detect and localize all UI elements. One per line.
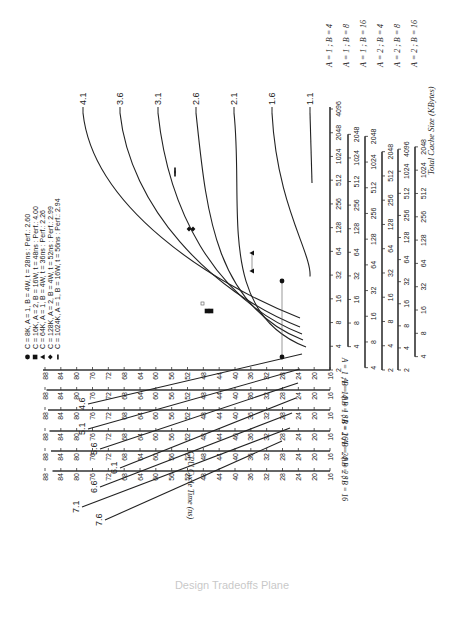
y-tick-label: 36 bbox=[247, 372, 254, 380]
y-tick-label: 88 bbox=[42, 372, 49, 380]
y-tick-label: 28 bbox=[279, 473, 286, 481]
x-tick-label: 1024 bbox=[370, 154, 377, 170]
square-marker bbox=[209, 309, 214, 314]
contour-label: 3.6 bbox=[115, 92, 125, 105]
circle-marker bbox=[280, 355, 285, 360]
x-tick-label: 32 bbox=[387, 269, 394, 277]
y-tick-label: 56 bbox=[168, 392, 175, 400]
y-tick-label: 72 bbox=[105, 433, 112, 441]
x-tick-label: 32 bbox=[353, 272, 360, 280]
legend-label: C = 1024K, A = 1, B = 16W, t = 56ns : Pe… bbox=[54, 198, 61, 349]
contour-label: 4.1 bbox=[78, 92, 88, 105]
x-tick-label: 512 bbox=[387, 170, 394, 182]
data-points bbox=[174, 168, 284, 360]
y-tick-label: 64 bbox=[137, 392, 144, 400]
x-tick-label: 4 bbox=[420, 355, 427, 359]
x-tick-label: 16 bbox=[403, 300, 410, 308]
x-tick-label: 8 bbox=[335, 320, 342, 324]
y-tick-label: 20 bbox=[311, 433, 318, 441]
y-tick-label: 20 bbox=[311, 372, 318, 380]
circle-marker bbox=[25, 355, 30, 360]
x-axis-name: A = 2 ; B = 16 bbox=[410, 20, 419, 68]
legend-label: C = 8K, A = 1, B = 4W, t = 28ns : Perf.:… bbox=[24, 214, 31, 349]
y-tick-label: 16 bbox=[327, 453, 334, 461]
y-tick-label: 24 bbox=[295, 412, 302, 420]
y-tick-label: 88 bbox=[42, 453, 49, 461]
y-tick-label: 88 bbox=[42, 392, 49, 400]
y-tick-label: 60 bbox=[152, 433, 159, 441]
legend-label: C = 64K, A = 1, B = 4W, t = 36ns : Perf.… bbox=[39, 210, 46, 349]
contour-label: 2.6 bbox=[191, 92, 201, 105]
y-tick-label: 40 bbox=[232, 372, 239, 380]
x-tick-label: 256 bbox=[370, 208, 377, 220]
contour-3.6 bbox=[120, 113, 300, 327]
y-tick-label: 16 bbox=[327, 412, 334, 420]
x-tick-label: 256 bbox=[335, 198, 342, 210]
x-tick-label: 64 bbox=[387, 245, 394, 253]
y-axis-1: 16202428323640444852566064687276808488A … bbox=[42, 357, 350, 399]
y-tick-label: 56 bbox=[168, 412, 175, 420]
x-tick-label: 8 bbox=[420, 331, 427, 335]
y-tick-label: 84 bbox=[57, 412, 64, 420]
x-tick-label: 4 bbox=[387, 344, 394, 348]
x-tick-label: 128 bbox=[370, 233, 377, 245]
x-axis-name: A = 1 ; B = 4 bbox=[325, 24, 334, 68]
x-tick-label: 64 bbox=[353, 248, 360, 256]
x-axis-name: A = 2 ; B = 8 bbox=[393, 24, 402, 68]
contour-label: 2.1 bbox=[229, 92, 239, 105]
x-tick-label: 16 bbox=[370, 312, 377, 320]
x-tick-label: 128 bbox=[387, 219, 394, 231]
legend: C = 8K, A = 1, B = 4W, t = 28ns : Perf.:… bbox=[24, 198, 61, 359]
contour-label: 6.1 bbox=[109, 461, 119, 474]
y-tick-label: 84 bbox=[57, 473, 64, 481]
y-tick-label: 88 bbox=[42, 412, 49, 420]
circle-marker bbox=[280, 279, 285, 284]
y-tick-label: 36 bbox=[247, 473, 254, 481]
y-tick-label: 80 bbox=[73, 372, 80, 380]
y-tick-label: 44 bbox=[216, 412, 223, 420]
y-tick-label: 76 bbox=[89, 412, 96, 420]
legend-label: C = 16K, A = 2, B = 16W, t = 48ns : Perf… bbox=[32, 206, 39, 349]
y-tick-label: 16 bbox=[327, 392, 334, 400]
x-tick-label: 512 bbox=[403, 187, 410, 199]
y-tick-label: 32 bbox=[263, 412, 270, 420]
x-tick-label: 2048 bbox=[335, 125, 342, 141]
dash-marker bbox=[57, 355, 59, 360]
y-tick-label: 16 bbox=[327, 473, 334, 481]
figure-caption: Design Tradeoffs Plane bbox=[175, 579, 289, 591]
y-tick-label: 20 bbox=[311, 453, 318, 461]
y-tick-label: 64 bbox=[137, 372, 144, 380]
y-tick-label: 60 bbox=[152, 392, 159, 400]
x-tick-label: 2 bbox=[387, 368, 394, 372]
y-tick-label: 48 bbox=[200, 372, 207, 380]
y-tick-label: 80 bbox=[73, 473, 80, 481]
x-tick-label: 8 bbox=[353, 321, 360, 325]
x-tick-label: 2 bbox=[403, 368, 410, 372]
x-tick-label: 2048 bbox=[387, 144, 394, 160]
contour-label: 7.1 bbox=[71, 500, 81, 513]
triangle-marker bbox=[40, 354, 45, 359]
x-axis-name: A = 2 ; B = 4 bbox=[376, 24, 385, 68]
y-tick-label: 52 bbox=[184, 372, 191, 380]
x-tick-label: 512 bbox=[335, 174, 342, 186]
x-tick-label: 32 bbox=[403, 278, 410, 286]
square-marker bbox=[205, 309, 210, 314]
x-tick-label: 128 bbox=[353, 223, 360, 235]
x-axis-series-names: A = 1 ; B = 4A = 1 ; B = 8A = 1 ; B = 16… bbox=[325, 20, 419, 68]
y-tick-label: 60 bbox=[152, 372, 159, 380]
y-tick-label: 64 bbox=[137, 473, 144, 481]
contour-label: 1.6 bbox=[267, 92, 277, 105]
x-tick-label: 4 bbox=[403, 346, 410, 350]
contour-label: 5.1 bbox=[77, 422, 87, 435]
x-tick-label: 8 bbox=[370, 340, 377, 344]
y-tick-label: 68 bbox=[121, 372, 128, 380]
x-tick-label: 64 bbox=[335, 247, 342, 255]
y-tick-label: 36 bbox=[247, 433, 254, 441]
y-tick-label: 40 bbox=[232, 453, 239, 461]
contour-1.1 bbox=[310, 113, 312, 183]
legend-label: C = 128K, A = 2, B = 4W, t = 52ns : Perf… bbox=[47, 206, 54, 349]
x-tick-label: 1024 bbox=[353, 150, 360, 166]
y-axis-name: A = 2 ; B = 16 bbox=[340, 456, 349, 501]
x-tick-label: 256 bbox=[353, 199, 360, 211]
y-tick-label: 80 bbox=[73, 453, 80, 461]
